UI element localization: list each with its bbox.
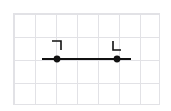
plot-svg bbox=[0, 0, 171, 111]
l-shape-icon bbox=[113, 41, 121, 50]
right-endpoint-dot[interactable] bbox=[114, 56, 121, 63]
figure-canvas bbox=[0, 0, 171, 111]
not-sign-icon bbox=[52, 41, 61, 50]
left-endpoint-dot[interactable] bbox=[54, 56, 61, 63]
